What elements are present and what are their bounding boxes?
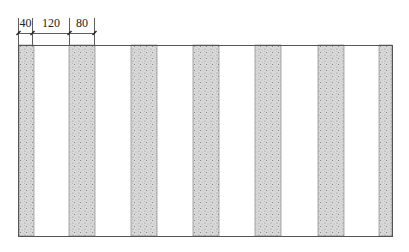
dimension-group: 4012080 [17, 16, 97, 45]
strips-group [19, 45, 392, 236]
dimension-label: 80 [76, 16, 88, 30]
shaded-strip [19, 45, 34, 236]
shaded-strip [318, 45, 344, 236]
shaded-strip [379, 45, 392, 236]
dimension-label: 120 [42, 16, 60, 30]
shaded-strip [255, 45, 281, 236]
shaded-strip [193, 45, 219, 236]
shaded-strip [131, 45, 157, 236]
strip-layout-diagram: 4012080 [0, 0, 409, 252]
shaded-strip [69, 45, 95, 236]
dimension-label: 40 [20, 16, 32, 30]
